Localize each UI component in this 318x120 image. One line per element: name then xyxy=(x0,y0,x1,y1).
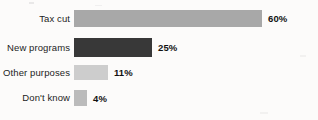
bar-category-label: New programs xyxy=(0,43,74,53)
bar-value-label: 11% xyxy=(108,67,133,78)
bar-fill xyxy=(74,65,108,80)
bar-fill xyxy=(74,38,152,57)
bar-category-label: Other purposes xyxy=(0,68,74,78)
bar-fill xyxy=(74,10,262,27)
bar-fill xyxy=(74,90,87,106)
bar-category-label: Tax cut xyxy=(0,14,74,24)
bar-row: Tax cut 60% xyxy=(0,10,318,27)
bar-chart: Tax cut 60% New programs 25% Other purpo… xyxy=(0,0,318,120)
bar-row: New programs 25% xyxy=(0,38,318,57)
bar-row: Don't know 4% xyxy=(0,90,318,106)
bar-value-label: 25% xyxy=(152,42,177,53)
scan-speck xyxy=(29,2,34,4)
bar-value-label: 4% xyxy=(87,93,107,104)
scan-speck xyxy=(95,5,102,6)
scan-speck xyxy=(260,112,268,114)
bar-row: Other purposes 11% xyxy=(0,65,318,80)
bar-category-label: Don't know xyxy=(0,93,74,103)
bar-value-label: 60% xyxy=(262,13,287,24)
